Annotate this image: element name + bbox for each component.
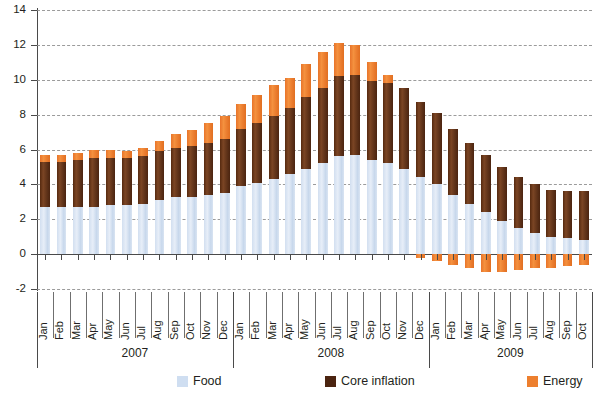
chart-container: 14121086420-2 JanFebMarAprMayJunJulAugSe…	[0, 0, 610, 406]
x-axis-tick	[437, 254, 438, 260]
bar-segment-energy	[220, 116, 230, 139]
bar-segment-core-inflation	[285, 108, 295, 174]
bar-stack	[285, 10, 295, 289]
bar-stack	[40, 10, 50, 289]
x-axis-tick	[453, 254, 454, 260]
month-label: Aug	[542, 292, 556, 340]
bar-segment-food	[106, 205, 116, 254]
bar-segment-energy	[301, 64, 311, 97]
month-label-separator	[380, 292, 381, 338]
bar-segment-core-inflation	[497, 167, 507, 221]
bar-segment-food	[301, 169, 311, 254]
bar-stack	[204, 10, 214, 289]
x-axis-tick	[502, 254, 503, 260]
bar-stack	[497, 10, 507, 289]
bar-segment-energy	[367, 62, 377, 81]
bar-stack	[530, 10, 540, 289]
bar-stack	[269, 10, 279, 289]
month-label-separator	[135, 292, 136, 338]
bar-stack	[432, 10, 442, 289]
legend-item-food: Food	[177, 374, 222, 388]
y-axis-tick-label: -2	[0, 283, 26, 295]
month-label-separator	[494, 292, 495, 338]
bar-segment-energy	[57, 155, 67, 162]
month-label: Apr	[85, 292, 99, 340]
x-axis-tick	[372, 254, 373, 260]
bar-segment-core-inflation	[155, 151, 165, 200]
month-label: Jul	[526, 292, 540, 340]
x-axis-tick	[176, 254, 177, 260]
month-label: Apr	[281, 292, 295, 340]
bar-stack	[57, 10, 67, 289]
month-label-separator	[331, 292, 332, 338]
bar-segment-energy	[269, 85, 279, 116]
month-label: Aug	[150, 292, 164, 340]
month-label: Dec	[216, 292, 230, 340]
x-axis-tick	[551, 254, 552, 260]
month-label-separator	[298, 292, 299, 338]
gridline	[37, 45, 592, 46]
bar-segment-food	[432, 184, 442, 254]
bar-stack	[236, 10, 246, 289]
bar-segment-core-inflation	[301, 97, 311, 168]
bar-segment-food	[350, 155, 360, 254]
month-label: May	[493, 292, 507, 340]
y-axis-tick-label: 14	[0, 4, 26, 16]
month-label: Mar	[265, 292, 279, 340]
x-axis-tick	[421, 254, 422, 260]
bar-stack	[122, 10, 132, 289]
plot-area	[37, 10, 592, 289]
bar-segment-food	[269, 179, 279, 254]
x-axis-tick	[127, 254, 128, 260]
year-separator	[592, 292, 593, 368]
bar-segment-core-inflation	[399, 88, 409, 168]
month-label: Feb	[248, 292, 262, 340]
month-label: Aug	[346, 292, 360, 340]
month-label: Jan	[36, 292, 50, 340]
bar-stack	[514, 10, 524, 289]
month-label-separator	[461, 292, 462, 338]
month-label-separator	[184, 292, 185, 338]
bar-segment-energy	[334, 43, 344, 76]
month-label: Dec	[412, 292, 426, 340]
bar-segment-energy	[383, 75, 393, 84]
y-axis-tick-label: 4	[0, 178, 26, 190]
bar-segment-energy	[236, 104, 246, 128]
month-label: May	[101, 292, 115, 340]
bar-segment-core-inflation	[269, 116, 279, 179]
bar-stack	[563, 10, 573, 289]
bar-segment-core-inflation	[514, 177, 524, 228]
bar-stack	[73, 10, 83, 289]
month-label-separator	[478, 292, 479, 338]
bar-segment-energy	[122, 151, 132, 158]
year-label: 2009	[429, 346, 592, 360]
x-axis-tick	[61, 254, 62, 260]
bar-segment-core-inflation	[579, 191, 589, 240]
bar-segment-core-inflation	[187, 146, 197, 197]
gridline	[37, 115, 592, 116]
legend-label-food: Food	[193, 374, 222, 388]
bar-segment-food	[546, 237, 556, 254]
gridline	[37, 150, 592, 151]
month-label: May	[297, 292, 311, 340]
bar-segment-energy	[138, 148, 148, 157]
bar-segment-core-inflation	[236, 129, 246, 187]
bar-segment-core-inflation	[220, 139, 230, 193]
year-label: 2007	[37, 346, 233, 360]
bar-segment-food	[171, 197, 181, 255]
bar-stack	[155, 10, 165, 289]
month-label-separator	[282, 292, 283, 338]
month-label: Oct	[183, 292, 197, 340]
bar-segment-food	[514, 228, 524, 254]
x-axis-tick	[323, 254, 324, 260]
bar-segment-core-inflation	[383, 83, 393, 163]
bar-segment-core-inflation	[530, 184, 540, 233]
bar-stack	[579, 10, 589, 289]
bar-segment-core-inflation	[318, 88, 328, 163]
bar-segment-food	[220, 193, 230, 254]
bar-segment-core-inflation	[73, 160, 83, 207]
month-label: Jul	[330, 292, 344, 340]
bar-stack	[350, 10, 360, 289]
bar-segment-food	[399, 169, 409, 254]
month-label-separator	[315, 292, 316, 338]
